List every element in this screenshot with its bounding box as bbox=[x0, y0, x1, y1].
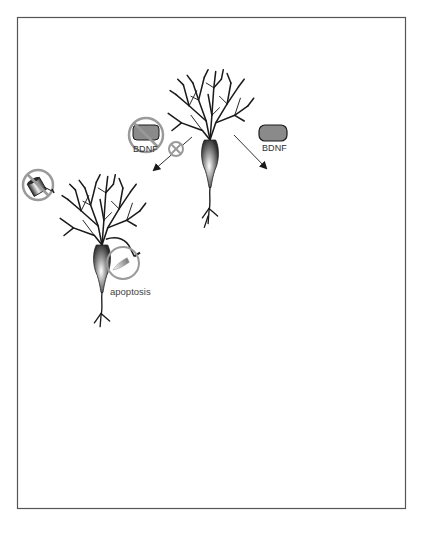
diagram-canvas bbox=[0, 0, 421, 541]
inhibit-icon bbox=[169, 142, 183, 156]
apoptosis-label: apoptosis bbox=[110, 286, 151, 297]
knife-icon bbox=[111, 258, 130, 271]
bdnf-blocked-label: BDNF bbox=[133, 144, 158, 154]
figure-frame bbox=[18, 18, 406, 509]
watering-can-blocked-icon bbox=[23, 170, 54, 200]
bdnf-supplied-label: BDNF bbox=[262, 143, 287, 153]
bdnf-icon bbox=[259, 125, 287, 141]
apoptosis-icon bbox=[107, 247, 139, 279]
